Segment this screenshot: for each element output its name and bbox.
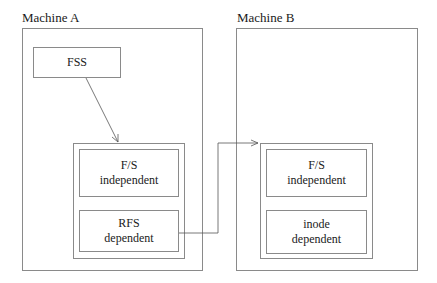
node-subtitle: independent: [287, 173, 346, 188]
node-subtitle: dependent: [104, 231, 153, 246]
fss-node-label: FSS: [67, 55, 87, 70]
node-subtitle: dependent: [292, 232, 341, 247]
machine-a-fs-independent-node: F/S independent: [79, 149, 179, 197]
node-subtitle: independent: [100, 173, 159, 188]
node-title: inode: [303, 217, 330, 232]
fss-node: FSS: [33, 47, 121, 78]
node-title: F/S: [121, 158, 138, 173]
machine-a-label: Machine A: [22, 11, 79, 25]
node-title: F/S: [308, 158, 325, 173]
machine-b-fs-independent-node: F/S independent: [266, 149, 367, 197]
node-title: RFS: [118, 216, 139, 231]
rfs-dependent-node: RFS dependent: [79, 210, 179, 252]
inode-dependent-node: inode dependent: [266, 210, 367, 254]
machine-b-label: Machine B: [237, 11, 294, 25]
